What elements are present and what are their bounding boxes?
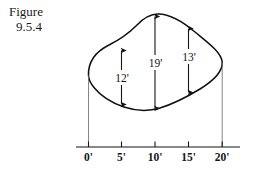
axis-tick-10: 10': [148, 142, 163, 164]
measurement-12-feet-label: 12': [115, 72, 129, 84]
measurement-12-feet: 12': [112, 51, 134, 105]
axis-tick-0: 0': [84, 142, 93, 164]
axis-tick-5: 5': [117, 142, 126, 164]
figure-container: Figure 9.5.4 12' 19': [0, 0, 259, 170]
axis-tick-label: 20': [215, 151, 230, 163]
axis-tick-label: 15': [181, 151, 196, 163]
axis-tick-label: 5': [117, 151, 126, 163]
measurement-19-feet: 19': [145, 17, 167, 109]
figure-diagram: 12' 19' 13' 0' 5' 10': [0, 0, 259, 170]
measurement-13-feet-label: 13': [182, 51, 196, 63]
axis-tick-15: 15': [181, 142, 196, 164]
axis-tick-label: 0': [84, 151, 93, 163]
axis-tick-20: 20': [215, 142, 230, 164]
axis-tick-label: 10': [148, 151, 163, 163]
measurement-13-feet: 13': [179, 29, 201, 93]
measurement-19-feet-label: 19': [149, 57, 163, 69]
